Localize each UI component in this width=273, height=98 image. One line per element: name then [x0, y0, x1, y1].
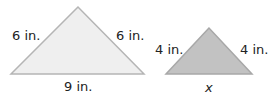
- small-triangle-left-label: 4 in.: [155, 43, 183, 56]
- large-triangle-left-label: 6 in.: [12, 29, 40, 42]
- large-triangle-base-label: 9 in.: [64, 80, 92, 93]
- large-triangle-right-label: 6 in.: [116, 29, 144, 42]
- triangles-diagram: [0, 0, 273, 98]
- small-triangle-base-label: x: [205, 81, 213, 94]
- small-triangle-right-label: 4 in.: [240, 43, 268, 56]
